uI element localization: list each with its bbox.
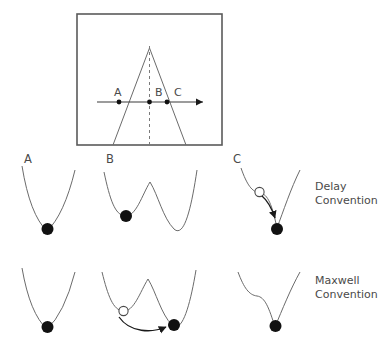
control-point-b-dot <box>147 100 152 105</box>
delay-panel-a-label: A <box>24 152 32 166</box>
delay-panel-c: C <box>233 152 300 235</box>
maxwell-panel-a <box>22 268 75 333</box>
state-ball-filled <box>42 223 54 235</box>
control-point-a-dot <box>117 100 122 105</box>
state-ball-filled <box>168 319 180 331</box>
jump-arrow <box>119 317 166 331</box>
control-point-b-label: B <box>155 86 163 99</box>
state-ball-filled <box>270 320 282 332</box>
potential-curve-fold-shoulder <box>241 168 300 228</box>
state-ball-filled <box>271 223 283 235</box>
maxwell-panel-b <box>102 270 196 331</box>
delay-panel-b-label: B <box>106 152 114 166</box>
delay-convention-row: A B C Delay Convention <box>22 152 378 235</box>
maxwell-convention-line1: Maxwell <box>315 274 360 287</box>
potential-curve-single-well <box>22 166 75 231</box>
potential-curve-single-well <box>22 268 75 329</box>
delay-convention-line2: Convention <box>315 194 378 207</box>
maxwell-convention-row: Maxwell Convention <box>22 268 378 333</box>
state-ball-hollow <box>255 187 264 196</box>
potential-curve-shoulder-well <box>238 272 300 327</box>
maxwell-panel-c <box>238 272 300 332</box>
delay-panel-b: B <box>104 152 197 231</box>
state-ball-filled <box>42 321 54 333</box>
potential-curve-double-well <box>102 270 196 327</box>
state-ball-hollow <box>119 306 128 315</box>
catastrophe-convention-figure: A B C A B C Delay Conven <box>0 0 389 345</box>
delay-panel-c-label: C <box>233 152 241 166</box>
potential-curve-double-well <box>104 170 197 231</box>
control-point-a-label: A <box>114 86 122 99</box>
delay-convention-line1: Delay <box>315 180 347 193</box>
state-ball-filled <box>120 210 132 222</box>
control-point-c-dot <box>165 100 170 105</box>
control-point-c-label: C <box>174 86 182 99</box>
maxwell-convention-line2: Convention <box>315 288 378 301</box>
control-plane-box: A B C <box>77 14 222 145</box>
delay-panel-a: A <box>22 152 75 235</box>
